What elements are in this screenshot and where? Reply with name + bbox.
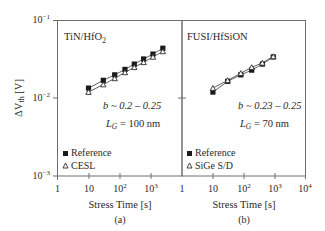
annotation-a: b ~ 0.2 – 0.25 LG = 100 nm <box>103 100 161 131</box>
panel-label-a: (a) <box>114 214 125 226</box>
open-triangle-icon <box>187 163 192 168</box>
svg-text:102: 102 <box>237 182 251 194</box>
x-axis-label-a: Stress Time [s] <box>88 199 151 210</box>
svg-text:103: 103 <box>268 182 282 194</box>
svg-text:1: 1 <box>180 183 185 194</box>
svg-text:10−3: 10−3 <box>33 169 51 181</box>
legend-a: Reference CESL <box>63 147 112 171</box>
svg-text:Reference: Reference <box>195 147 236 158</box>
svg-text:104: 104 <box>298 182 312 194</box>
annotation-b: b ~ 0.23 – 0.25 LG = 70 nm <box>238 100 301 131</box>
plot-area-b <box>210 54 276 95</box>
data-point-triangle <box>210 86 215 91</box>
svg-text:1: 1 <box>55 183 60 194</box>
panel-title-b: FUSI/HfSiON <box>187 31 248 42</box>
x-axis-label-b: Stress Time [s] <box>212 199 275 210</box>
x-tick-labels-b: 1 10 102 103 104 <box>180 182 313 194</box>
svg-text:10: 10 <box>84 183 94 194</box>
x-tick-labels-a: 1 10 102 103 <box>55 182 158 194</box>
y-tick-labels: 10−1 10−2 10−3 <box>33 13 51 181</box>
figure: ΔVth [V] 10−1 10−2 10−3 1 10 102 103 1 1… <box>0 0 325 231</box>
svg-text:SiGe S/D: SiGe S/D <box>195 160 233 171</box>
legend-b: Reference SiGe S/D <box>187 147 236 171</box>
svg-text:LG = 100 nm: LG = 100 nm <box>105 118 160 131</box>
svg-text:CESL: CESL <box>71 160 95 171</box>
svg-text:103: 103 <box>144 182 158 194</box>
svg-text:ΔVth [V]: ΔVth [V] <box>13 79 26 117</box>
svg-text:102: 102 <box>113 182 127 194</box>
svg-text:LG = 70 nm: LG = 70 nm <box>239 118 289 131</box>
series-line <box>213 56 273 88</box>
svg-text:b ~ 0.23 – 0.25: b ~ 0.23 – 0.25 <box>238 100 301 111</box>
svg-text:10: 10 <box>208 183 218 194</box>
filled-square-icon <box>187 151 192 156</box>
svg-text:b ~ 0.2 – 0.25: b ~ 0.2 – 0.25 <box>103 100 161 111</box>
panel-label-b: (b) <box>238 214 250 226</box>
data-point-triangle <box>249 65 254 70</box>
svg-text:10−2: 10−2 <box>33 91 51 103</box>
svg-text:10−1: 10−1 <box>33 13 51 25</box>
panel-title-a: TiN/HfO2 <box>64 31 106 45</box>
y-axis-label: ΔVth [V] <box>13 79 26 117</box>
filled-square-icon <box>63 151 68 156</box>
open-triangle-icon <box>63 163 68 168</box>
svg-text:Reference: Reference <box>71 147 112 158</box>
plot-area-a <box>86 46 166 95</box>
